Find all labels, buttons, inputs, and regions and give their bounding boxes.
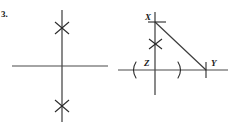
figure-page: 3.: [0, 0, 231, 128]
vertex-label-z: Z: [143, 58, 150, 68]
right-figure-hypotenuse-line: [155, 22, 206, 70]
right-figure-group: X Z Y: [118, 12, 228, 95]
vertex-label-x: X: [144, 12, 152, 22]
vertex-label-y: Y: [211, 58, 218, 68]
left-figure-group: [12, 10, 108, 122]
problem-number-label: 3.: [1, 9, 8, 19]
geometry-figure-canvas: 3.: [0, 0, 231, 128]
